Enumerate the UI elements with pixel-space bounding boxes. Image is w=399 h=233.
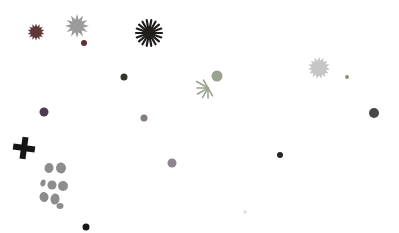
black-ray-flower	[136, 20, 162, 46]
black-plus	[12, 136, 37, 161]
mauve-dot-small	[141, 115, 148, 122]
faint-speck	[243, 210, 247, 214]
olive-speck	[345, 75, 349, 79]
mauve-dot	[168, 159, 177, 168]
maroon-gear-burst	[28, 24, 45, 41]
green-spider-asterisk	[197, 71, 223, 99]
gray-blob-cluster	[39, 162, 68, 209]
shape-canvas	[0, 0, 399, 233]
silver-star-burst	[65, 14, 89, 38]
maroon-dot	[81, 40, 87, 46]
abstract-shape-scene	[0, 0, 399, 233]
plum-dot	[40, 108, 49, 117]
black-dot-bottom	[83, 224, 90, 231]
charcoal-dot	[121, 74, 128, 81]
black-dot-right	[277, 152, 283, 158]
dark-gray-dot	[369, 108, 379, 118]
light-gray-gear-burst	[308, 57, 330, 79]
